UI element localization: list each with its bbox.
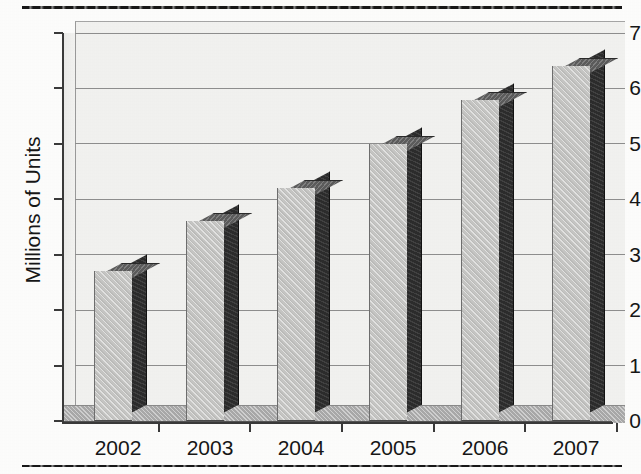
y-axis-tick-label: 1 <box>597 355 641 376</box>
y-axis-tick-label: 6 <box>597 77 641 98</box>
x-axis-tick <box>249 423 251 432</box>
gridline <box>75 88 625 89</box>
y-axis-tick-label: 7 <box>597 22 641 43</box>
gridline <box>75 199 625 200</box>
x-axis-tick-label: 2007 <box>531 437 621 458</box>
bar <box>369 144 407 421</box>
y-axis-tick <box>54 254 63 256</box>
bar-side-face <box>314 172 330 413</box>
x-axis-tick <box>341 423 343 432</box>
plot-left-wall <box>62 33 76 421</box>
x-axis-tick <box>524 423 526 432</box>
y-axis-tick <box>54 309 63 311</box>
bar-front-face <box>369 144 407 421</box>
gridline <box>75 33 625 34</box>
bar-side-face <box>498 83 514 413</box>
y-axis-tick-label: 5 <box>597 133 641 154</box>
bar-side-face <box>223 205 239 413</box>
bar-front-face <box>186 221 224 421</box>
plot-back-wall <box>75 21 625 421</box>
y-axis-tick <box>54 198 63 200</box>
gridline <box>75 365 625 366</box>
bar-front-face <box>277 188 315 421</box>
bar <box>94 271 132 421</box>
x-axis-tick-label: 2002 <box>73 437 163 458</box>
gridline <box>75 143 625 144</box>
gridline <box>75 254 625 255</box>
top-divider-rule <box>22 6 622 9</box>
y-axis-tick-label: 0 <box>597 410 641 431</box>
y-axis-tick <box>54 32 63 34</box>
gridline <box>75 310 625 311</box>
bar <box>186 221 224 421</box>
bar-front-face <box>552 66 590 421</box>
x-axis-tick <box>158 423 160 432</box>
bar-front-face <box>461 100 499 421</box>
bottom-divider-rule <box>22 465 622 467</box>
bar <box>552 66 590 421</box>
bar <box>461 100 499 421</box>
bar-side-face <box>406 127 422 413</box>
y-axis-tick-label: 3 <box>597 244 641 265</box>
x-axis-tick-label: 2004 <box>256 437 346 458</box>
bar-chart-figure: 01234567 200220032004200520062007 Millio… <box>0 0 641 474</box>
bar <box>277 188 315 421</box>
y-axis-tick-label: 2 <box>597 299 641 320</box>
y-axis-tick <box>54 420 63 422</box>
y-axis-tick-label: 4 <box>597 188 641 209</box>
y-axis-tick <box>54 365 63 367</box>
y-axis-title: Millions of Units <box>21 95 45 325</box>
y-axis-tick <box>54 143 63 145</box>
x-axis-tick-label: 2003 <box>165 437 255 458</box>
bar-front-face <box>94 271 132 421</box>
x-axis-tick-label: 2005 <box>348 437 438 458</box>
x-axis-line <box>62 422 613 424</box>
bar-side-face <box>131 255 147 413</box>
x-axis-tick <box>433 423 435 432</box>
y-axis-tick <box>54 87 63 89</box>
x-axis-tick-label: 2006 <box>440 437 530 458</box>
